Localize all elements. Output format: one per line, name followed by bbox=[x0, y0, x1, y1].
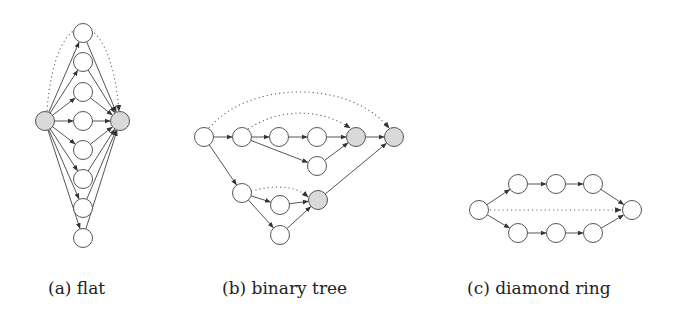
edge bbox=[601, 215, 623, 228]
edge bbox=[53, 127, 75, 144]
graph-node bbox=[233, 128, 252, 147]
graph-node bbox=[308, 157, 327, 176]
edge bbox=[487, 190, 510, 205]
edge bbox=[87, 130, 116, 199]
graph-node bbox=[623, 201, 642, 220]
subfigure-diamond-ring bbox=[470, 175, 642, 243]
subfigure-binary-tree bbox=[195, 92, 404, 245]
edge bbox=[87, 42, 116, 112]
edge bbox=[49, 130, 79, 199]
highlighted-node bbox=[36, 112, 55, 131]
graph-node bbox=[74, 170, 93, 189]
graph-node bbox=[74, 24, 93, 43]
edge bbox=[287, 207, 311, 229]
caption-diamond-ring: (c) diamond ring bbox=[467, 278, 611, 298]
edge bbox=[248, 200, 273, 228]
edge bbox=[289, 201, 308, 203]
subfigure-flat bbox=[36, 24, 130, 248]
graph-node bbox=[547, 175, 566, 194]
highlighted-node bbox=[347, 128, 366, 147]
graph-node bbox=[74, 229, 93, 248]
highlighted-node bbox=[111, 112, 130, 131]
edge bbox=[209, 145, 236, 185]
edge bbox=[325, 143, 348, 160]
dotted-edge bbox=[209, 92, 389, 128]
graph-node bbox=[74, 83, 93, 102]
highlighted-node bbox=[309, 191, 328, 210]
graph-node bbox=[271, 226, 290, 245]
caption-flat: (a) flat bbox=[48, 278, 105, 298]
figure-canvas bbox=[0, 0, 675, 318]
caption-binary-tree: (b) binary tree bbox=[222, 278, 347, 298]
graph-node bbox=[509, 175, 528, 194]
graph-node bbox=[584, 224, 603, 243]
graph-node bbox=[308, 128, 327, 147]
graph-node bbox=[509, 224, 528, 243]
graph-node bbox=[74, 199, 93, 218]
graph-node bbox=[74, 112, 93, 131]
highlighted-node bbox=[385, 128, 404, 147]
edge bbox=[90, 98, 112, 115]
graph-node bbox=[470, 201, 489, 220]
edge bbox=[251, 196, 270, 202]
edge bbox=[487, 215, 509, 228]
dotted-edge bbox=[248, 113, 350, 129]
edge bbox=[90, 127, 112, 144]
graph-node bbox=[270, 128, 289, 147]
edge bbox=[53, 98, 75, 115]
edge bbox=[325, 143, 386, 194]
graph-node bbox=[584, 175, 603, 194]
graph-node bbox=[74, 141, 93, 160]
graph-node bbox=[547, 224, 566, 243]
graph-node bbox=[195, 128, 214, 147]
graph-node bbox=[271, 196, 290, 215]
edge bbox=[601, 189, 624, 204]
edge bbox=[49, 42, 79, 112]
graph-node bbox=[233, 184, 252, 203]
graph-node bbox=[74, 53, 93, 72]
